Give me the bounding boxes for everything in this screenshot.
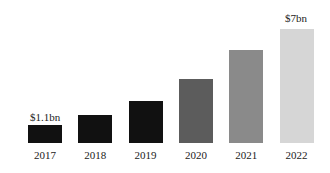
- x-label-2019: 2019: [121, 149, 171, 161]
- x-label-2017: 2017: [20, 149, 70, 161]
- data-label-2022: $7bn: [266, 12, 326, 24]
- data-label-2017: $1.1bn: [15, 111, 75, 123]
- bar-2019: [129, 101, 163, 143]
- x-label-2020: 2020: [171, 149, 221, 161]
- x-label-2018: 2018: [70, 149, 120, 161]
- bar-2020: [179, 79, 213, 143]
- bar-2018: [78, 115, 112, 143]
- bar-chart: 201720182019202020212022 $1.1bn $7bn: [0, 0, 330, 173]
- bar-2022: [280, 29, 314, 143]
- x-label-2022: 2022: [272, 149, 322, 161]
- x-label-2021: 2021: [221, 149, 271, 161]
- bar-2021: [229, 50, 263, 143]
- bar-2017: [28, 125, 62, 143]
